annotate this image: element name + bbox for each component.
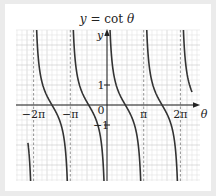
x-axis-label: θ: [201, 108, 208, 121]
cot-branch: [107, 0, 143, 196]
y-tick-label: −1: [93, 119, 109, 132]
cot-branch: [181, 0, 192, 92]
x-tick-label: −π: [62, 108, 78, 121]
cot-curves: [28, 0, 192, 196]
x-tick-label: π: [140, 108, 147, 121]
x-tick-label: −2π: [22, 108, 45, 121]
chart-title: y = cot θ: [79, 12, 135, 26]
x-axis-arrow-icon: [193, 102, 200, 107]
cot-branch: [28, 143, 33, 196]
y-axis-label: y: [96, 29, 104, 42]
axes: [16, 29, 200, 181]
x-tick-label: 2π: [173, 108, 187, 121]
y-tick-label: 1: [98, 79, 105, 92]
x-tick-label: 0: [98, 104, 105, 117]
cot-chart: y = cot θ y θ −2π−π0π2π 1−1: [0, 0, 216, 196]
